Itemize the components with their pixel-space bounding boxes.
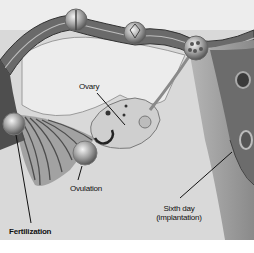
label-sixth-day: Sixth day (implantation): [149, 204, 209, 222]
morula: [184, 36, 208, 60]
blastocyst: [236, 72, 250, 88]
label-sixth-day-line1: Sixth day: [149, 204, 209, 213]
label-ovulation: Ovulation: [70, 184, 102, 193]
label-fertilization: Fertilization: [9, 227, 51, 236]
implanting-blastocyst: [240, 131, 252, 149]
four-cell-embryo: [124, 22, 146, 44]
label-sixth-day-line2: (implantation): [149, 213, 209, 222]
label-ovary: Ovary: [79, 82, 99, 91]
reproductive-diagram: Ovary Ovulation Fertilization Sixth day …: [0, 0, 254, 253]
illustration: [0, 0, 254, 240]
ovulated-egg: [73, 141, 97, 165]
fertilized-egg: [3, 113, 25, 135]
